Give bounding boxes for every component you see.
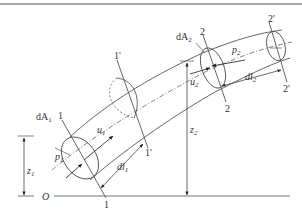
label-p1: p1 [54, 151, 64, 164]
label-z2: z2 [189, 124, 198, 137]
label-section-2-bottom: 2 [225, 103, 230, 114]
label-u2: u2 [190, 76, 199, 89]
cut-line-1prime [117, 60, 148, 148]
pressure-arrow-2 [212, 60, 245, 66]
label-section-2prime-bottom: 2' [283, 83, 290, 94]
label-section-1-bottom: 1 [104, 199, 109, 210]
label-dl2: dl2 [245, 71, 257, 84]
pressure-arrow-1 [66, 164, 82, 178]
streamline-center [52, 42, 292, 170]
label-section-2prime-top: 2' [268, 13, 275, 24]
dA2-leader [196, 43, 205, 53]
label-dA1: dA1 [36, 111, 52, 124]
label-section-1prime-bottom: 1' [145, 147, 152, 158]
label-section-1-top: 1 [58, 110, 63, 121]
label-z1: z1 [26, 165, 34, 178]
streamtube-diagram: O 1 1 1' 1' 2 2 2' 2' dA1 [0, 0, 302, 215]
label-dA2: dA2 [176, 31, 192, 44]
label-section-1prime-top: 1' [114, 50, 121, 61]
label-dl1: dl1 [117, 161, 128, 174]
tube-top [70, 30, 282, 137]
label-section-2-top: 2 [200, 26, 205, 37]
label-p2: p2 [231, 44, 241, 57]
origin-label: O [42, 191, 49, 202]
velocity-arrow-1 [84, 136, 113, 160]
